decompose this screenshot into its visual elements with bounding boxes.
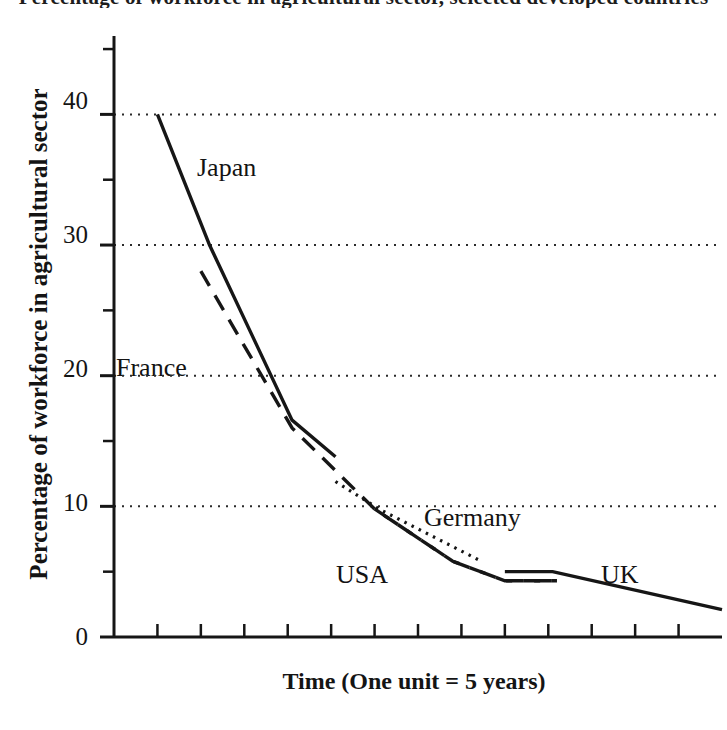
chart-figure: Percentage of workforce in agricultural … [0,0,727,730]
series-line-uk [505,572,722,610]
axis-lines-group [114,36,722,637]
x-ticks-group [157,624,678,637]
series-line-japan [157,114,335,456]
series-line-germany [335,482,478,560]
plot-canvas [0,0,727,730]
series-line-france [201,271,557,581]
series-paths-group [157,114,722,609]
gridlines-group [114,114,722,506]
y-ticks-group [100,49,114,637]
